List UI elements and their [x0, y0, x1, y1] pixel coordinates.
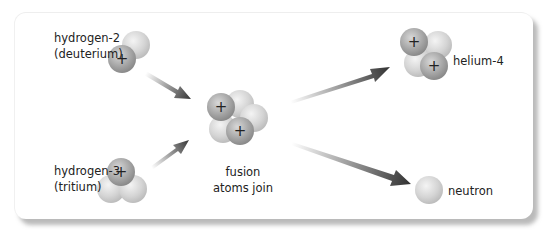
- fusion-line2: atoms join: [205, 180, 281, 196]
- tritium-alias: (tritium): [54, 179, 120, 195]
- svg-text:+: +: [215, 98, 228, 116]
- arrow-tritium-to-fusion-icon: [150, 140, 189, 170]
- tritium-name: hydrogen-3: [54, 163, 120, 179]
- helium-4-label: helium-4: [453, 53, 504, 69]
- helium-4-atom-icon: + +: [400, 28, 452, 80]
- svg-text:+: +: [428, 57, 441, 75]
- fusion-line1: fusion: [205, 164, 281, 180]
- svg-text:+: +: [408, 33, 421, 51]
- fusion-label: fusion atoms join: [205, 164, 281, 196]
- deuterium-label: hydrogen-2 (deuterium): [54, 30, 123, 62]
- arrow-fusion-to-helium-icon: [290, 67, 390, 104]
- arrow-fusion-to-neutron-icon: [291, 142, 411, 186]
- arrow-deuterium-to-fusion-icon: [144, 71, 191, 99]
- deuterium-alias: (deuterium): [54, 46, 123, 62]
- svg-text:+: +: [234, 122, 247, 140]
- fusion-cluster-icon: + +: [207, 90, 268, 145]
- neutron-label: neutron: [448, 183, 493, 199]
- neutron-particle-icon: [415, 176, 443, 204]
- tritium-label: hydrogen-3 (tritium): [54, 163, 120, 195]
- deuterium-name: hydrogen-2: [54, 30, 123, 46]
